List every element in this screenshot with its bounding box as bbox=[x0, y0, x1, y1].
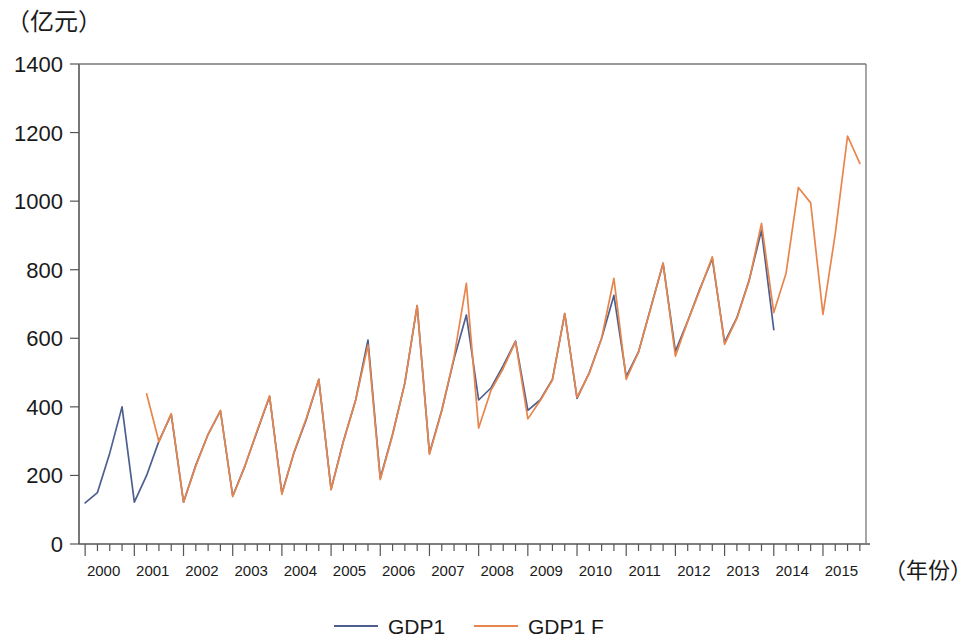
x-tick-label: 2013 bbox=[726, 562, 759, 579]
y-tick-label: 0 bbox=[51, 532, 63, 557]
x-tick-label: 2010 bbox=[579, 562, 612, 579]
x-tick-label: 2011 bbox=[629, 562, 661, 579]
x-tick-label: 2003 bbox=[234, 562, 267, 579]
x-axis-tick-group: 2000200120022003200420052006200720082009… bbox=[85, 544, 860, 579]
y-tick-label: 1000 bbox=[14, 189, 63, 214]
y-tick-label: 1200 bbox=[14, 121, 63, 146]
x-tick-label: 2004 bbox=[284, 562, 317, 579]
legend-group: GDP1GDP1 F bbox=[334, 615, 604, 638]
x-tick-label: 2009 bbox=[530, 562, 563, 579]
x-tick-label: 2001 bbox=[136, 562, 169, 579]
y-tick-label: 400 bbox=[26, 395, 63, 420]
series-line-gdp1 bbox=[85, 230, 774, 503]
x-tick-label: 2002 bbox=[185, 562, 218, 579]
legend-label-gdp1-f: GDP1 F bbox=[528, 615, 604, 638]
x-tick-label: 2007 bbox=[431, 562, 464, 579]
x-tick-label: 2014 bbox=[776, 562, 809, 579]
x-tick-label: 2015 bbox=[825, 562, 858, 579]
x-tick-label: 2008 bbox=[480, 562, 513, 579]
x-tick-label: 2012 bbox=[677, 562, 710, 579]
gdp-forecast-line-chart: （亿元） （年份） 0200400600800100012001400 2000… bbox=[0, 0, 971, 642]
legend-label-gdp1: GDP1 bbox=[388, 615, 445, 638]
y-tick-label: 1400 bbox=[14, 52, 63, 77]
x-tick-label: 2005 bbox=[333, 562, 366, 579]
y-tick-label: 600 bbox=[26, 326, 63, 351]
plot-frame bbox=[79, 64, 870, 544]
y-axis-tick-group: 0200400600800100012001400 bbox=[14, 52, 79, 557]
y-tick-label: 800 bbox=[26, 258, 63, 283]
series-group bbox=[85, 136, 860, 503]
chart-svg: 0200400600800100012001400 20002001200220… bbox=[0, 0, 971, 642]
series-line-gdp1-f bbox=[147, 136, 860, 502]
x-tick-label: 2006 bbox=[382, 562, 415, 579]
y-tick-label: 200 bbox=[26, 463, 63, 488]
x-tick-label: 2000 bbox=[87, 562, 120, 579]
